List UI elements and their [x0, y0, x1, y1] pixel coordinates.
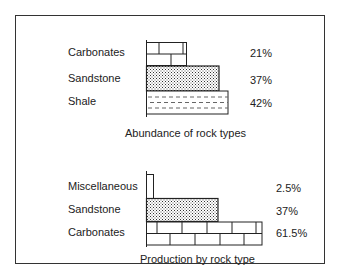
top-value-shale: 42%: [250, 97, 272, 109]
top-bar-sandstone: [147, 66, 220, 91]
top-value-sandstone: 37%: [250, 74, 272, 86]
top-label-shale: Shale: [68, 95, 96, 107]
bottom-label-sandstone: Sandstone: [68, 203, 121, 215]
bottom-bar-sandstone: [147, 199, 219, 222]
top-bar-shale: [147, 91, 229, 114]
bottom-value-miscellaneous: 2.5%: [276, 182, 301, 194]
bottom-bar-carbonates: [147, 222, 263, 245]
top-value-carbonates: 21%: [250, 47, 272, 59]
bottom-value-sandstone: 37%: [276, 205, 298, 217]
bottom-label-miscellaneous: Miscellaneous: [68, 180, 138, 192]
bottom-value-carbonates: 61.5%: [276, 227, 307, 239]
bottom-label-carbonates: Carbonates: [68, 226, 125, 238]
top-label-carbonates: Carbonates: [68, 46, 125, 58]
top-bar-carbonates: [147, 43, 187, 66]
bottom-chart-title: Production by rock type: [140, 253, 255, 265]
bottom-chart: [147, 171, 263, 247]
top-chart-title: Abundance of rock types: [125, 127, 246, 139]
top-chart: [147, 40, 229, 117]
bottom-bar-miscellaneous: [147, 175, 154, 199]
top-label-sandstone: Sandstone: [68, 72, 121, 84]
